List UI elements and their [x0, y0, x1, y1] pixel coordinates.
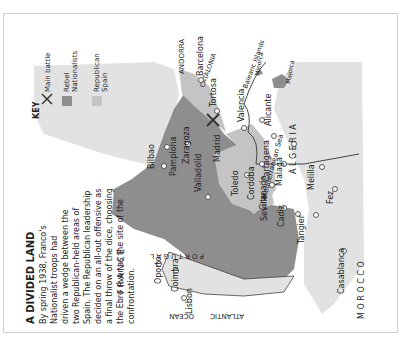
title: A DIVIDED LAND [25, 232, 36, 324]
key-swatch-republican [92, 96, 102, 106]
key-label-rebel: Rebel [63, 72, 71, 92]
body-line: confrontation. [127, 268, 136, 324]
key-label-spain: Spain [101, 72, 109, 92]
body-line: decided on an all-out offensive as [94, 189, 103, 324]
city-zaragoza: Zaragoza [182, 126, 191, 164]
city-fez: Fez [326, 191, 335, 204]
key-swatch-nationalist [62, 96, 72, 106]
city-alicante: Alicante [264, 94, 273, 126]
city-tangier: Tangier [297, 214, 306, 245]
city-seville: Seville [260, 195, 269, 221]
city-valladolid: Valladolid [194, 153, 203, 192]
atlantic-label: ATLANTIC [210, 312, 244, 320]
city-barcelona: Barcelona [196, 36, 205, 76]
morocco-label: M O R O C C O [357, 261, 366, 319]
key-label-republican: Republican [93, 53, 101, 92]
city-bilbao: Bilbao [147, 144, 156, 169]
city-melilla: Melilla [307, 164, 316, 190]
city-valencia: Valencia [237, 88, 246, 122]
city-pamplona: Pamplona [169, 137, 178, 176]
body-line: By spring 1938, Franco's [39, 225, 48, 324]
city-lisbon: Lisbon [185, 288, 194, 314]
city-oporto: Oporto [154, 256, 163, 284]
andorra-label: ANDORRA [178, 39, 186, 74]
key-label-battle: Main battle [44, 53, 52, 92]
city-coimbra: Coimbra [171, 258, 180, 292]
city-madrid: Madrid [213, 135, 222, 162]
balearic-label: Balearic Islands [241, 38, 266, 89]
city-casablanca: Casablanca [337, 248, 346, 294]
description-block: A DIVIDED LAND By spring 1938, Franco's … [25, 188, 136, 324]
body-line: driven a wedge between the [61, 209, 70, 324]
body-line: the Ebro river as the site of the [116, 199, 125, 324]
body-line: Spain. The Republican leadership [83, 191, 92, 324]
city-malaga: Malaga [275, 157, 284, 186]
body-line: Nationalist troops had [50, 236, 59, 324]
city-cordoba: Cordoba [247, 166, 256, 200]
body-line: two Republican-held areas of [72, 208, 81, 324]
map-frame: F R A N C E ANDORRA CATALONIA A L G E R … [3, 13, 398, 333]
body-line: a final throw of the dice, choosing [105, 188, 114, 324]
key-heading: KEY [32, 101, 41, 119]
key-label-nationalists: Nationalists [71, 50, 79, 92]
algeria-label: A L G E R I A [289, 124, 298, 174]
city-cadiz: Cadiz [277, 205, 286, 227]
city-toledo: Toledo [231, 170, 240, 197]
city-tortosa: Tortosa [209, 78, 218, 108]
